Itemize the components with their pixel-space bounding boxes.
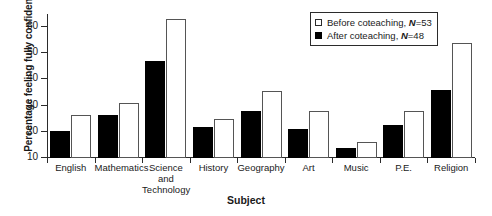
bar-after-coteaching: [336, 148, 356, 158]
legend-swatch-before-icon: [315, 19, 322, 26]
x-axis-category-label: P.E.: [380, 162, 428, 173]
y-tick-label: 60: [27, 19, 38, 32]
bar-before-coteaching: [119, 103, 139, 158]
x-tick: [475, 158, 476, 163]
y-tick-label: 30: [27, 98, 38, 111]
bar-after-coteaching: [383, 125, 403, 158]
bar-before-coteaching: [71, 115, 91, 158]
y-tick: 30: [41, 105, 47, 106]
x-axis-category-label: Geography: [237, 162, 285, 173]
x-axis-category-label: Religion: [427, 162, 475, 173]
x-axis-category-label: Music: [332, 162, 380, 173]
bar-group: [193, 14, 234, 158]
bar-chart: Percentage feeling fully confident 10203…: [0, 0, 492, 216]
legend-n-before-symbol: N: [409, 17, 416, 28]
bar-after-coteaching: [98, 115, 118, 158]
y-tick-label: 50: [27, 45, 38, 58]
x-axis-title: Subject: [0, 194, 492, 206]
x-axis-category-label: English: [47, 162, 95, 173]
legend-n-after-value: =48: [408, 30, 424, 41]
chart-legend: Before coteaching, N=53 After coteaching…: [310, 12, 438, 46]
y-tick: 60: [41, 26, 47, 27]
legend-item-before: Before coteaching, N=53: [315, 16, 432, 29]
bar-group: [145, 14, 186, 158]
bar-after-coteaching: [288, 129, 308, 158]
legend-label-before-text: Before coteaching,: [327, 17, 409, 28]
bar-group: [50, 14, 91, 158]
bar-after-coteaching: [431, 90, 451, 158]
bar-before-coteaching: [214, 119, 234, 158]
bar-before-coteaching: [166, 19, 186, 158]
x-axis-category-label: Art: [285, 162, 333, 173]
bar-before-coteaching: [357, 142, 377, 158]
y-tick: 20: [41, 131, 47, 132]
y-axis-line: [47, 14, 48, 158]
bar-after-coteaching: [193, 127, 213, 158]
y-tick-label: 10: [27, 150, 38, 163]
bar-after-coteaching: [50, 131, 70, 158]
legend-label-after: After coteaching, N=48: [327, 30, 424, 41]
legend-label-after-text: After coteaching,: [327, 30, 401, 41]
x-axis-category-label: History: [190, 162, 238, 173]
bar-group: [98, 14, 139, 158]
bar-before-coteaching: [262, 91, 282, 158]
bar-before-coteaching: [404, 111, 424, 158]
y-tick: 50: [41, 52, 47, 53]
bar-before-coteaching: [452, 43, 472, 158]
bar-after-coteaching: [241, 111, 261, 158]
legend-n-before-value: =53: [416, 17, 432, 28]
y-tick-label: 20: [27, 124, 38, 137]
legend-item-after: After coteaching, N=48: [315, 29, 432, 42]
x-axis-category-label: Science and Technology: [142, 162, 190, 195]
legend-n-after-symbol: N: [401, 30, 408, 41]
legend-swatch-after-icon: [315, 32, 322, 39]
bar-after-coteaching: [145, 61, 165, 158]
y-tick: 40: [41, 78, 47, 79]
bar-group: [241, 14, 282, 158]
y-tick-label: 40: [27, 71, 38, 84]
bar-before-coteaching: [309, 111, 329, 158]
legend-label-before: Before coteaching, N=53: [327, 17, 432, 28]
x-axis-category-label: Mathematics: [95, 162, 143, 173]
